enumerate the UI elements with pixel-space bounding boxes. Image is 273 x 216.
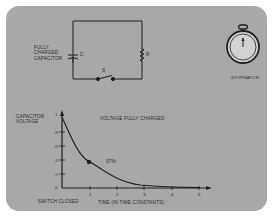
capacitor-label-line: CAPACITOR [34, 56, 62, 61]
stopwatch-icon [227, 25, 259, 63]
y-axis-label-line: VOLTAGE [16, 119, 44, 124]
switch-icon [96, 76, 114, 81]
x-tick: 5 [198, 192, 200, 197]
voltage-fully-charged-label: VOLTAGE FULLY CHARGED [100, 116, 165, 121]
y-tick: .6 [54, 144, 58, 149]
x-tick: 3 [143, 192, 145, 197]
y-tick: .4 [54, 158, 58, 163]
y-tick: 0 [55, 185, 57, 190]
discharge-curve [62, 117, 200, 188]
stopwatch-label: STOPWATCH [231, 75, 259, 80]
capacitor-label: FULLY CHARGED CAPACITOR [34, 45, 62, 61]
x-tick: 4 [171, 192, 173, 197]
graph-axes [59, 110, 212, 190]
y-tick: .8 [54, 130, 58, 135]
x-axis-label: TIME (IN TIME CONSTANTS) [98, 200, 164, 205]
x-tick: 1 [89, 192, 91, 197]
y-tick: 1 [55, 112, 57, 117]
capacitor-symbol: C [80, 52, 84, 57]
rc-circuit [68, 21, 144, 81]
resistor-symbol: R [146, 52, 150, 57]
y-axis-label: CAPACITOR VOLTAGE [16, 114, 44, 125]
37-percent-point [87, 160, 91, 164]
y-tick: .2 [54, 172, 58, 177]
switch-closed-label: SWITCH CLOSED [38, 199, 79, 204]
x-tick: 2 [116, 192, 118, 197]
percent-annotation: 37% [106, 159, 116, 164]
diagram-drawing [0, 0, 273, 216]
switch-symbol: S [102, 68, 105, 73]
